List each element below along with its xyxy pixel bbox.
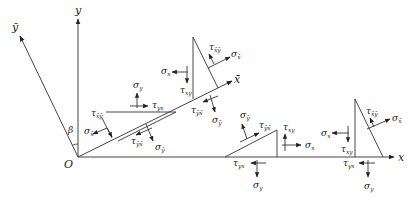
sigma-ybar-arrow [146,124,153,141]
sigma-x-label: σx [321,128,331,139]
tau-xy-label: τxy [283,122,295,134]
y-bar-axis [20,36,78,157]
sigma-ybar-label: σȳ [212,115,222,127]
sigma-xbar-arrow [93,128,107,134]
tau-xbar-ybar-label: τx̄ȳ [91,108,103,120]
wedge-lower-right-2: σx τxy τx̄ȳ σx̄ τyx σy [321,99,402,193]
sigma-y-label: σy [253,180,263,192]
y-axis-label: y [74,4,82,17]
sigma-ybar-arrow [242,124,247,139]
sigma-y-label: σy [133,80,143,92]
tau-xbar-ybar-label: τx̄ȳ [209,42,221,54]
origin-label: O [64,158,73,171]
sigma-xbar-label: σx̄ [392,113,402,124]
tau-arrow [107,128,112,137]
sigma-ybar-label: σȳ [155,142,165,154]
wedge-outline [225,130,277,157]
sigma-xbar-arrow [367,119,390,129]
sigma-xbar-label: σx̄ [231,49,241,60]
sigma-x-label: σx [161,66,171,77]
wedge-lower-left: τx̄ȳ σx̄ σy τyx τȳx̄ σȳ [84,80,176,154]
tau-yx-label: τyx [233,158,245,170]
angle-beta-label: β [67,125,73,135]
tau-yx-label: τyx [152,100,164,112]
tau-xbar-ybar-label: τx̄ȳ [366,106,378,118]
y-bar-axis-label: ȳ [11,21,19,34]
tau-ybar-xbar-label: τȳx̄ [259,120,271,132]
wedge-outline [106,112,176,141]
sigma-xbar-label: σx̄ [84,126,94,137]
sigma-ybar-label: σȳ [240,110,250,122]
wedge-lower-right-1: σȳ τȳx̄ τxy σx τyx σy [225,110,315,192]
sigma-x-label: σx [305,140,315,151]
tau-ybar-xbar-arrow [136,128,152,135]
tau-xbar-ybar-arrow [209,54,214,64]
tau-ybar-xbar-label: τȳx̄ [131,136,143,148]
tau-ybar-xbar-label: τȳx̄ [191,105,203,117]
tau-xbar-ybar-arrow [370,118,374,127]
x-axis-label: x [398,151,405,164]
tau-yx-label: τyx [343,158,355,170]
tau-xy-label: τxy [341,144,353,156]
stress-transformation-diagram: x y ȳ x̄ O β τx̄ȳ σx̄ σy τyx τȳx̄ σȳ σx … [0,0,413,204]
x-bar-axis-label: x̄ [234,73,241,86]
sigma-y-label: σy [364,181,374,193]
angle-beta-arc [73,144,79,145]
tau-xy-label: τxy [180,85,192,97]
